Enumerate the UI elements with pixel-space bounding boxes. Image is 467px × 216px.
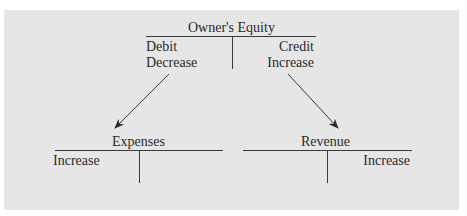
flow-arrows: [0, 0, 467, 216]
revenue-increase-label: Increase: [363, 153, 410, 168]
arrow-to-expenses: [115, 74, 169, 128]
revenue-title: Revenue: [301, 134, 350, 149]
expenses-title: Expenses: [112, 134, 165, 149]
expenses-divider: [139, 150, 140, 183]
revenue-divider: [327, 150, 328, 183]
expenses-increase-label: Increase: [53, 153, 100, 168]
arrow-to-revenue: [288, 74, 338, 128]
